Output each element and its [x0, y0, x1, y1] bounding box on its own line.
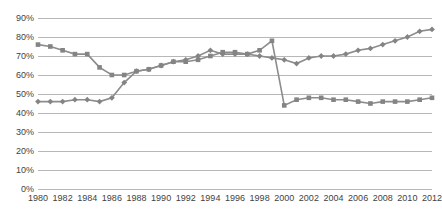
data-point-diamond [380, 42, 386, 48]
data-point-diamond [318, 53, 324, 59]
data-point-diamond [306, 55, 312, 61]
x-axis-tick-label: 2010 [397, 193, 417, 203]
x-axis-tick-label: 1980 [28, 193, 48, 203]
gridline [38, 189, 432, 190]
x-axis-tick-label: 2006 [348, 193, 368, 203]
data-point-square [171, 59, 176, 64]
x-axis-tick-label: 1982 [53, 193, 73, 203]
data-point-square [97, 65, 102, 70]
data-point-square [430, 96, 435, 101]
data-point-square [159, 63, 164, 68]
data-point-square [331, 97, 336, 102]
data-point-square [196, 58, 201, 63]
data-point-square [344, 97, 349, 102]
data-point-square [307, 96, 312, 101]
data-point-diamond [392, 38, 398, 44]
y-axis-tick-label: 70% [16, 52, 34, 61]
data-point-diamond [35, 99, 41, 105]
data-point-square [380, 99, 385, 104]
y-axis-tick-label: 20% [16, 147, 34, 156]
x-axis: 1980198219841986198819901992199419961998… [38, 193, 432, 207]
data-point-square [110, 73, 115, 78]
data-point-square [147, 67, 152, 72]
data-point-square [73, 52, 78, 57]
data-point-square [85, 52, 90, 57]
y-axis-tick-label: 10% [16, 166, 34, 175]
x-axis-tick-label: 1998 [250, 193, 270, 203]
data-point-square [282, 103, 287, 108]
data-point-diamond [257, 53, 263, 59]
data-point-square [48, 44, 53, 49]
data-point-square [220, 50, 225, 55]
x-axis-tick-label: 1992 [176, 193, 196, 203]
data-point-diamond [84, 97, 90, 103]
data-point-square [368, 101, 373, 106]
data-point-square [319, 96, 324, 101]
y-axis: 90%80%70%60%50%40%30%20%10%0% [0, 0, 34, 223]
series-square [36, 39, 435, 108]
data-point-diamond [47, 99, 53, 105]
data-point-diamond [355, 47, 361, 53]
data-point-square [134, 69, 139, 74]
series-layer [38, 18, 432, 189]
y-axis-tick-label: 30% [16, 128, 34, 137]
data-point-diamond [281, 57, 287, 63]
x-axis-tick-label: 2012 [422, 193, 442, 203]
data-point-square [208, 54, 213, 59]
data-point-diamond [269, 55, 275, 61]
y-axis-tick-label: 80% [16, 33, 34, 42]
data-point-square [245, 52, 250, 57]
x-axis-tick-label: 1984 [77, 193, 97, 203]
y-axis-tick-label: 50% [16, 90, 34, 99]
x-axis-tick-label: 1986 [102, 193, 122, 203]
data-point-square [417, 97, 422, 102]
x-axis-tick-label: 1994 [200, 193, 220, 203]
data-point-square [233, 50, 238, 55]
data-point-square [393, 99, 398, 104]
data-point-diamond [60, 99, 66, 105]
data-point-square [270, 39, 275, 44]
x-axis-tick-label: 2002 [299, 193, 319, 203]
data-point-square [122, 73, 127, 78]
data-point-diamond [404, 34, 410, 40]
data-point-diamond [368, 46, 374, 52]
x-axis-tick-label: 2004 [323, 193, 343, 203]
x-axis-tick-label: 2000 [274, 193, 294, 203]
x-axis-tick-label: 2008 [373, 193, 393, 203]
data-point-square [356, 99, 361, 104]
y-axis-tick-label: 90% [16, 14, 34, 23]
data-point-square [60, 48, 65, 53]
series-diamond [35, 27, 435, 105]
y-axis-tick-label: 60% [16, 71, 34, 80]
data-point-diamond [97, 99, 103, 105]
data-point-square [294, 97, 299, 102]
data-point-diamond [331, 53, 337, 59]
data-point-square [257, 48, 262, 53]
data-point-diamond [207, 47, 213, 53]
plot-area [38, 18, 432, 189]
y-axis-tick-label: 40% [16, 109, 34, 118]
data-point-square [405, 99, 410, 104]
data-point-square [36, 42, 41, 47]
x-axis-tick-label: 1990 [151, 193, 171, 203]
data-point-diamond [429, 27, 435, 33]
x-axis-tick-label: 1996 [225, 193, 245, 203]
data-point-diamond [72, 97, 78, 103]
data-point-square [183, 59, 188, 64]
x-axis-tick-label: 1988 [126, 193, 146, 203]
data-point-diamond [343, 51, 349, 57]
data-point-diamond [294, 61, 300, 67]
data-point-diamond [417, 28, 423, 34]
